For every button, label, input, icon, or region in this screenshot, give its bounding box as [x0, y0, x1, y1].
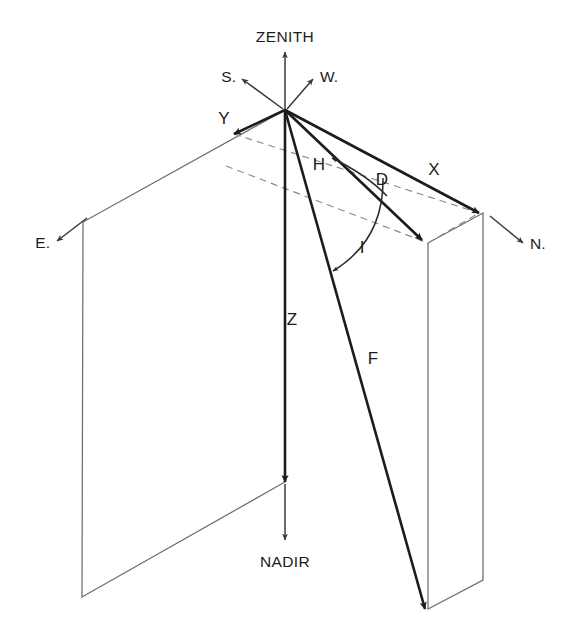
label-west: W.: [320, 68, 338, 85]
south-arrow: [242, 79, 283, 109]
label-nadir: NADIR: [260, 553, 310, 570]
dashed-horizon-line-near: [226, 166, 428, 243]
label-vector-z: Z: [287, 310, 297, 329]
label-vector-x: X: [428, 160, 439, 179]
label-south: S.: [221, 68, 236, 85]
dashed-horizon-line-far: [234, 134, 479, 213]
vector-f-line: [285, 110, 425, 609]
west-arrow: [287, 79, 313, 109]
geomagnetic-vector-diagram: ZENITH NADIR S. W. E. N. Y X H Z F D I: [0, 0, 570, 643]
north-arrow: [490, 216, 523, 243]
vector-h-line: [285, 110, 422, 240]
left-vertical-plane: [82, 110, 285, 597]
label-north: N.: [530, 235, 546, 252]
label-vector-y: Y: [218, 109, 229, 128]
label-zenith: ZENITH: [256, 28, 314, 45]
right-vertical-plane: [428, 213, 483, 609]
label-vector-f: F: [368, 349, 378, 368]
angle-i-arc: [333, 178, 383, 271]
vector-y-line: [234, 110, 285, 134]
label-vector-h: H: [313, 155, 325, 174]
label-angle-i: I: [360, 238, 365, 257]
diagram-page: ZENITH NADIR S. W. E. N. Y X H Z F D I: [0, 0, 570, 643]
label-angle-d: D: [376, 170, 388, 189]
label-east: E.: [35, 234, 50, 251]
